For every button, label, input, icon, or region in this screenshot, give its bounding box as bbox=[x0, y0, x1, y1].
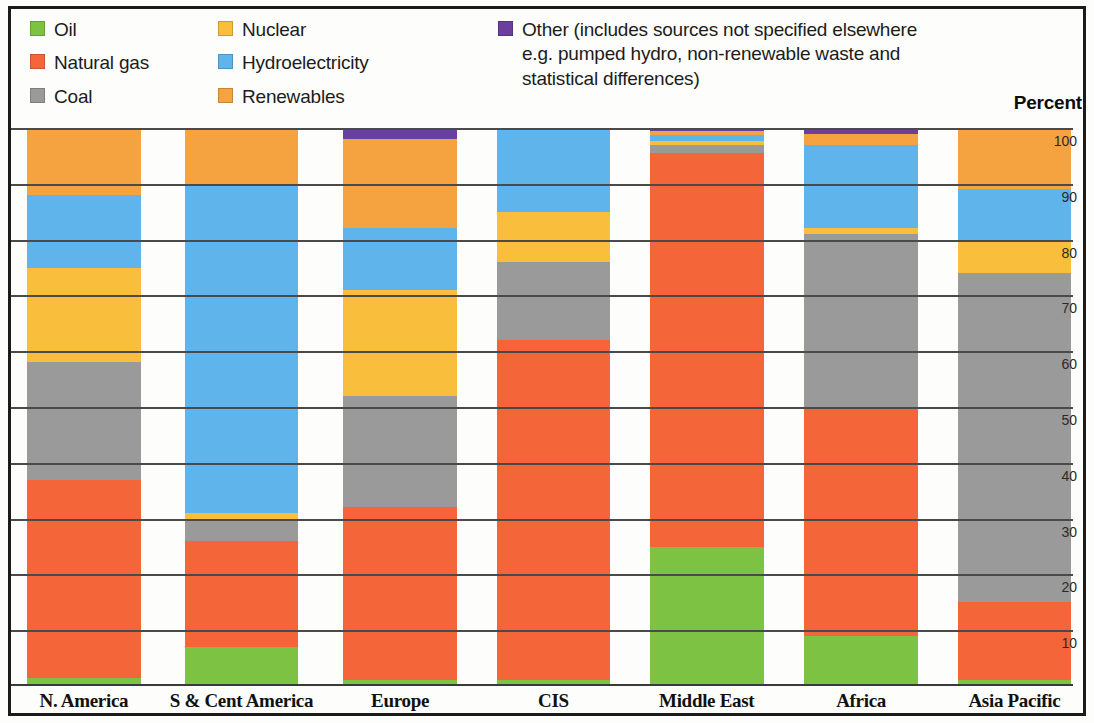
segment-hydro[interactable] bbox=[27, 195, 141, 268]
segment-hydro[interactable] bbox=[185, 184, 299, 513]
legend-label-nuclear: Nuclear bbox=[242, 18, 306, 42]
legend-label-natural-gas: Natural gas bbox=[54, 51, 149, 75]
legend-item-coal[interactable]: Coal bbox=[30, 85, 210, 109]
segment-oil[interactable] bbox=[804, 636, 918, 686]
segment-renewables[interactable] bbox=[343, 139, 457, 228]
axis-unit-label: Percent bbox=[1014, 92, 1082, 114]
legend-column-2: Nuclear Hydroelectricity Renewables bbox=[218, 18, 458, 118]
category-labels: N. AmericaS & Cent AmericaEuropeCISMiddl… bbox=[11, 688, 1083, 720]
segment-nuclear[interactable] bbox=[804, 228, 918, 234]
segment-renewables[interactable] bbox=[804, 134, 918, 145]
segment-coal[interactable] bbox=[958, 273, 1072, 602]
segment-hydro[interactable] bbox=[497, 128, 611, 212]
segment-other[interactable] bbox=[343, 128, 457, 139]
segment-other[interactable] bbox=[650, 128, 764, 131]
legend-item-nuclear[interactable]: Nuclear bbox=[218, 18, 458, 42]
category-label-asia-pacific: Asia Pacific bbox=[923, 690, 1094, 712]
segment-nuclear[interactable] bbox=[650, 141, 764, 144]
legend-label-other: Other (includes sources not specified el… bbox=[522, 18, 917, 91]
legend-item-hydroelectricity[interactable]: Hydroelectricity bbox=[218, 51, 458, 75]
segment-renewables[interactable] bbox=[185, 128, 299, 184]
segment-nuclear[interactable] bbox=[27, 268, 141, 363]
segment-gas[interactable] bbox=[185, 541, 299, 647]
tick-label-50: 50 bbox=[1031, 412, 1077, 428]
segment-nuclear[interactable] bbox=[185, 513, 299, 519]
legend-swatch-natural-gas bbox=[30, 54, 45, 69]
segment-coal[interactable] bbox=[650, 145, 764, 153]
legend-swatch-other bbox=[498, 21, 513, 36]
axis-baseline bbox=[11, 684, 1073, 686]
tick-label-60: 60 bbox=[1031, 356, 1077, 372]
bar-asia-pacific[interactable] bbox=[958, 128, 1072, 686]
bar-cis[interactable] bbox=[497, 128, 611, 686]
tick-label-30: 30 bbox=[1031, 524, 1077, 540]
segment-nuclear[interactable] bbox=[497, 212, 611, 262]
tick-label-70: 70 bbox=[1031, 300, 1077, 316]
chart-figure: Oil Natural gas Coal Nuclear Hydroelectr… bbox=[0, 0, 1094, 723]
segment-gas[interactable] bbox=[804, 407, 918, 636]
segment-hydro[interactable] bbox=[804, 145, 918, 229]
tick-label-20: 20 bbox=[1031, 579, 1077, 595]
segment-coal[interactable] bbox=[27, 362, 141, 479]
bar-s-cent-america[interactable] bbox=[185, 128, 299, 686]
legend-label-renewables: Renewables bbox=[242, 85, 345, 109]
segment-hydro[interactable] bbox=[343, 228, 457, 289]
tick-label-10: 10 bbox=[1031, 635, 1077, 651]
legend-item-other[interactable]: Other (includes sources not specified el… bbox=[498, 18, 1068, 91]
legend-item-natural-gas[interactable]: Natural gas bbox=[30, 51, 210, 75]
segment-gas[interactable] bbox=[343, 507, 457, 680]
legend-swatch-nuclear bbox=[218, 21, 233, 36]
segment-coal[interactable] bbox=[343, 396, 457, 508]
bar-africa[interactable] bbox=[804, 128, 918, 686]
legend-swatch-oil bbox=[30, 21, 45, 36]
tick-label-100: 100 bbox=[1031, 133, 1077, 149]
bar-europe[interactable] bbox=[343, 128, 457, 686]
segment-coal[interactable] bbox=[497, 262, 611, 340]
segment-other[interactable] bbox=[804, 128, 918, 134]
segment-gas[interactable] bbox=[27, 480, 141, 678]
segment-oil[interactable] bbox=[185, 647, 299, 686]
tick-label-80: 80 bbox=[1031, 245, 1077, 261]
segment-gas[interactable] bbox=[497, 340, 611, 680]
legend-column-3: Other (includes sources not specified el… bbox=[498, 18, 1068, 100]
legend-label-hydroelectricity: Hydroelectricity bbox=[242, 51, 369, 75]
segment-renewables[interactable] bbox=[650, 131, 764, 135]
segment-coal[interactable] bbox=[185, 519, 299, 541]
legend-swatch-hydroelectricity bbox=[218, 54, 233, 69]
segment-oil[interactable] bbox=[650, 547, 764, 687]
legend-column-1: Oil Natural gas Coal bbox=[30, 18, 210, 118]
chart-legend: Oil Natural gas Coal Nuclear Hydroelectr… bbox=[18, 10, 1073, 122]
segment-coal[interactable] bbox=[804, 234, 918, 407]
bar-n-america[interactable] bbox=[27, 128, 141, 686]
legend-swatch-renewables bbox=[218, 88, 233, 103]
tick-label-90: 90 bbox=[1031, 189, 1077, 205]
legend-item-renewables[interactable]: Renewables bbox=[218, 85, 458, 109]
tick-label-40: 40 bbox=[1031, 468, 1077, 484]
category-label-n-america: N. America bbox=[0, 690, 175, 712]
legend-label-oil: Oil bbox=[54, 18, 77, 42]
segment-nuclear[interactable] bbox=[343, 290, 457, 396]
segment-gas[interactable] bbox=[650, 153, 764, 546]
segment-hydro[interactable] bbox=[650, 135, 764, 142]
bar-middle-east[interactable] bbox=[650, 128, 764, 686]
legend-label-coal: Coal bbox=[54, 85, 92, 109]
category-label-s-cent-america: S & Cent America bbox=[150, 690, 332, 712]
legend-swatch-coal bbox=[30, 88, 45, 103]
segment-renewables[interactable] bbox=[27, 128, 141, 195]
legend-item-oil[interactable]: Oil bbox=[30, 18, 210, 42]
plot-area: 100908070605040302010 bbox=[11, 128, 1083, 686]
